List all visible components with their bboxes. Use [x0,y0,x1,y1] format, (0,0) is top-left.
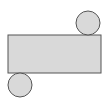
top-base-circle [76,11,100,35]
cylinder-net-diagram [0,0,108,108]
lateral-surface-rectangle [8,35,101,73]
bottom-base-circle [8,73,32,97]
